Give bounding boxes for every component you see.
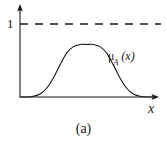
y-axis — [17, 4, 23, 97]
mu-subscript-a: A — [113, 58, 118, 67]
figure-container: 1 x μA(x) (a) — [0, 0, 167, 148]
mu-argument: (x) — [121, 49, 134, 63]
membership-function-label: μA(x) — [108, 50, 135, 65]
x-axis — [20, 94, 159, 100]
x-axis-label: x — [148, 102, 154, 116]
figure-caption: (a) — [0, 122, 167, 136]
y-axis-max-label: 1 — [7, 17, 14, 30]
